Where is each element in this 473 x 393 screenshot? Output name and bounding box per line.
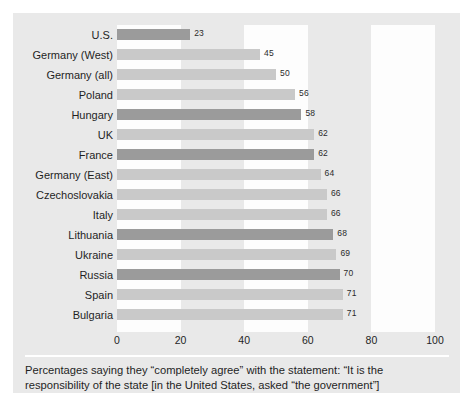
- x-tick-label: 80: [366, 334, 378, 346]
- bar-value-label: 56: [299, 88, 309, 98]
- bar-row: 64: [117, 165, 435, 185]
- x-tick-label: 20: [175, 334, 187, 346]
- category-label: Ukraine: [13, 245, 113, 265]
- bar-row: 50: [117, 65, 435, 85]
- bar-value-label: 58: [305, 108, 315, 118]
- category-axis-labels: U.S.Germany (West)Germany (all)PolandHun…: [13, 25, 113, 332]
- bar-value-label: 70: [344, 268, 354, 278]
- chart-caption: Percentages saying they “completely agre…: [25, 363, 453, 392]
- bar-value-label: 62: [318, 128, 328, 138]
- bar-value-label: 45: [264, 48, 274, 58]
- bar-row: 45: [117, 45, 435, 65]
- bar: [117, 189, 327, 200]
- bar-row: 69: [117, 245, 435, 265]
- bar-value-label: 23: [194, 28, 204, 38]
- bar: [117, 289, 343, 300]
- bar-row: 71: [117, 305, 435, 325]
- bar-rows: 234550565862626466666869707171: [117, 25, 435, 332]
- category-label: Germany (West): [13, 45, 113, 65]
- bar-value-label: 66: [331, 188, 341, 198]
- x-axis-ticks: 020406080100: [117, 334, 435, 352]
- caption-line-2: responsibility of the state [in the Unit…: [25, 378, 453, 393]
- category-label: Spain: [13, 285, 113, 305]
- bar-value-label: 64: [325, 168, 335, 178]
- x-tick-label: 60: [302, 334, 314, 346]
- category-label: Lithuania: [13, 225, 113, 245]
- caption-line-1: Percentages saying they “completely agre…: [25, 363, 453, 378]
- category-label: Hungary: [13, 105, 113, 125]
- bar-row: 66: [117, 185, 435, 205]
- bar-row: 62: [117, 145, 435, 165]
- category-label: Germany (all): [13, 65, 113, 85]
- bar: [117, 249, 336, 260]
- bar: [117, 29, 190, 40]
- bar-value-label: 66: [331, 208, 341, 218]
- bar: [117, 209, 327, 220]
- category-label: U.S.: [13, 25, 113, 45]
- category-label: Poland: [13, 85, 113, 105]
- chart-figure: U.S.Germany (West)Germany (all)PolandHun…: [0, 0, 473, 393]
- bar: [117, 89, 295, 100]
- category-label: Czechoslovakia: [13, 185, 113, 205]
- bar: [117, 129, 314, 140]
- bar: [117, 169, 321, 180]
- bar-value-label: 50: [280, 68, 290, 78]
- category-label: Germany (East): [13, 165, 113, 185]
- bar-row: 70: [117, 265, 435, 285]
- category-label: France: [13, 145, 113, 165]
- bar-value-label: 69: [340, 248, 350, 258]
- bar-row: 58: [117, 105, 435, 125]
- chart-panel: U.S.Germany (West)Germany (all)PolandHun…: [13, 13, 460, 393]
- bar-row: 66: [117, 205, 435, 225]
- bar: [117, 49, 260, 60]
- bar-row: 68: [117, 225, 435, 245]
- category-label: Bulgaria: [13, 305, 113, 325]
- bar-row: 56: [117, 85, 435, 105]
- category-label: Russia: [13, 265, 113, 285]
- category-label: UK: [13, 125, 113, 145]
- bar: [117, 269, 340, 280]
- bar-value-label: 71: [347, 288, 357, 298]
- plot-area: 234550565862626466666869707171: [117, 25, 435, 332]
- x-tick-label: 0: [114, 334, 120, 346]
- bar-value-label: 71: [347, 308, 357, 318]
- bar: [117, 149, 314, 160]
- bar-value-label: 62: [318, 148, 328, 158]
- bar: [117, 309, 343, 320]
- bar-row: 23: [117, 25, 435, 45]
- caption-divider: [25, 355, 449, 357]
- category-label: Italy: [13, 205, 113, 225]
- bar-value-label: 68: [337, 228, 347, 238]
- x-tick-label: 40: [238, 334, 250, 346]
- bar: [117, 229, 333, 240]
- bar: [117, 109, 301, 120]
- bar: [117, 69, 276, 80]
- bar-row: 71: [117, 285, 435, 305]
- bar-row: 62: [117, 125, 435, 145]
- x-tick-label: 100: [426, 334, 444, 346]
